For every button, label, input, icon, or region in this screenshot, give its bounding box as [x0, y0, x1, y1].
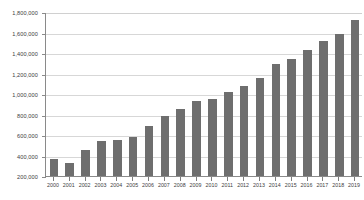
plot-area [45, 13, 362, 177]
x-axis-tick [307, 177, 308, 181]
x-axis-tick [275, 177, 276, 181]
y-axis-tick-label: 600,000 [17, 133, 38, 139]
bar [224, 92, 233, 176]
bar [335, 34, 344, 176]
x-axis-tick [164, 177, 165, 181]
bar [303, 50, 312, 176]
bar [319, 41, 328, 176]
x-axis-ticks [45, 177, 362, 181]
x-axis-tick [85, 177, 86, 181]
x-axis-tick [132, 177, 133, 181]
bar [65, 163, 74, 176]
x-axis-tick [180, 177, 181, 181]
x-axis-tick [53, 177, 54, 181]
bar [145, 126, 154, 176]
y-axis-tick-label: 1,600,000 [12, 31, 38, 37]
y-axis-tick-label: 1,800,000 [12, 10, 38, 16]
y-axis-tick-label: 1,200,000 [12, 72, 38, 78]
x-axis-tick-label: 2006 [142, 182, 154, 188]
bar [208, 99, 217, 176]
x-axis-tick-label: 2003 [94, 182, 106, 188]
y-axis-tick-label: 200,000 [17, 174, 38, 180]
x-axis-tick [227, 177, 228, 181]
x-axis-tick [116, 177, 117, 181]
x-axis-tick-label: 2005 [126, 182, 138, 188]
x-axis-tick [148, 177, 149, 181]
bar [161, 116, 170, 176]
x-axis-tick-label: 2000 [47, 182, 59, 188]
x-axis-tick-label: 2015 [285, 182, 297, 188]
bar [129, 137, 138, 176]
x-axis-tick-label: 2009 [190, 182, 202, 188]
x-axis-tick-label: 2010 [205, 182, 217, 188]
x-axis-tick [259, 177, 260, 181]
y-axis-tick-label: 1,000,000 [12, 92, 38, 98]
bar [256, 78, 265, 176]
x-axis-tick [211, 177, 212, 181]
bar [287, 59, 296, 176]
x-axis-tick-label: 2013 [253, 182, 265, 188]
x-axis-tick-label: 2017 [316, 182, 328, 188]
y-axis-labels: 200,000400,000600,000800,0001,000,0001,2… [0, 0, 42, 200]
bar [81, 150, 90, 176]
bar [113, 140, 122, 176]
x-axis-tick-label: 2001 [63, 182, 75, 188]
x-axis-tick-label: 2012 [237, 182, 249, 188]
x-axis-tick-label: 2014 [269, 182, 281, 188]
bar [50, 159, 59, 176]
x-axis-tick [243, 177, 244, 181]
x-axis-tick-label: 2018 [332, 182, 344, 188]
bar-chart: 200,000400,000600,000800,0001,000,0001,2… [0, 0, 364, 200]
y-axis-tick-label: 800,000 [17, 113, 38, 119]
x-axis-tick-label: 2007 [158, 182, 170, 188]
bar [176, 109, 185, 176]
x-axis-labels: 2000200120022003200420052006200720082009… [45, 182, 362, 196]
y-axis-tick-label: 1,400,000 [12, 51, 38, 57]
bar-series [46, 13, 362, 176]
x-axis-tick-label: 2008 [174, 182, 186, 188]
y-axis-tick-label: 400,000 [17, 154, 38, 160]
x-axis-tick-label: 2002 [79, 182, 91, 188]
x-axis-tick-label: 2019 [348, 182, 360, 188]
bar [240, 86, 249, 176]
x-axis-tick [338, 177, 339, 181]
x-axis-tick [291, 177, 292, 181]
x-axis-tick [69, 177, 70, 181]
bar [192, 101, 201, 176]
bar [97, 141, 106, 176]
x-axis-tick-label: 2016 [301, 182, 313, 188]
x-axis-tick [322, 177, 323, 181]
bar [272, 64, 281, 176]
bar [351, 20, 360, 176]
x-axis-tick [354, 177, 355, 181]
x-axis-tick-label: 2011 [221, 182, 233, 188]
x-axis-tick [100, 177, 101, 181]
x-axis-tick-label: 2004 [110, 182, 122, 188]
x-axis-tick [196, 177, 197, 181]
